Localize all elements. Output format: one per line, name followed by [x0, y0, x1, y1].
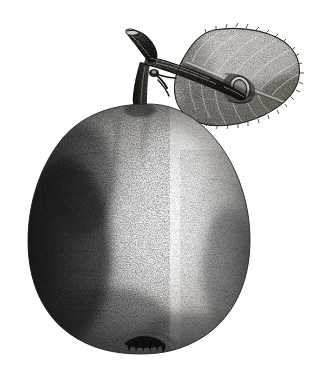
illustration-plate: [0, 0, 317, 376]
pear-engraving-svg: [0, 0, 317, 376]
